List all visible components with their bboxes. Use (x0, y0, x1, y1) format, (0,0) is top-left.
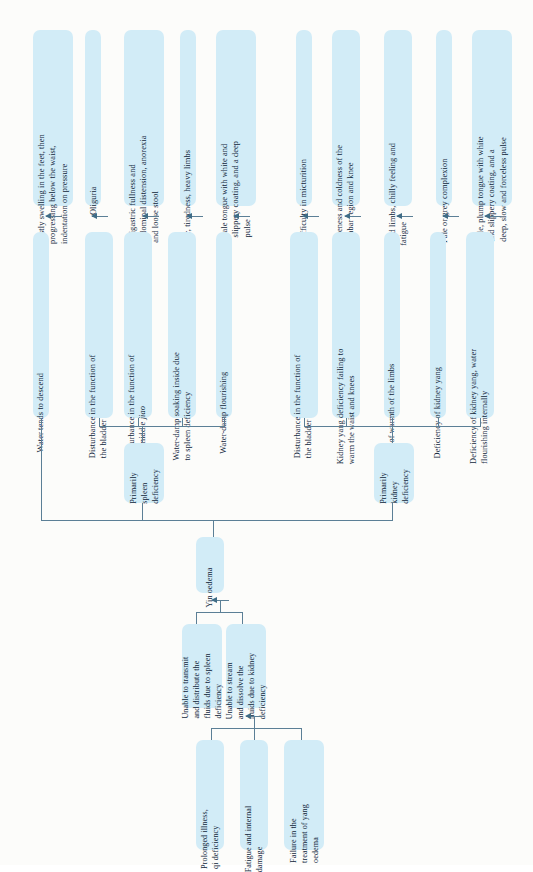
mechanism-label: Disturbance in the function of the bladd… (293, 355, 316, 458)
mechanism-label: Kidney yang deficiency failing to warm t… (335, 349, 358, 465)
pathogenesis-bracket-stem (220, 600, 221, 612)
root-cause-label: Fatigue and internal damage (243, 806, 265, 872)
pathogenesis-bracket (196, 612, 242, 613)
mechanism-label: Water-damp soaking inside due to spleen … (171, 352, 194, 460)
pathogenesis-label: Unable to stream and dissolve the fluids… (224, 653, 268, 720)
mechanism-node-10: Deficiency of kidney yang, water flouris… (466, 232, 494, 418)
kidney-stub-9 (438, 418, 439, 426)
arrow-head-4 (186, 213, 192, 219)
pattern-label: Primarily spleen deficiency (127, 469, 160, 504)
kidney-stub-6 (304, 418, 305, 426)
symptom-node-9: Pale or grey complexion (436, 30, 452, 206)
symptom-label: Pale tongue with white and slippery coat… (219, 141, 253, 238)
symptom-label: Cold limbs, chilly feeling and fatigue (387, 143, 410, 246)
symptom-node-4: Pallor, tiredness, heavy limbs (180, 30, 196, 206)
pattern-node-spleen: Primarily spleen deficiency (124, 443, 164, 503)
root-trunk (41, 520, 393, 521)
mechanism-label: Disturbance in the function of the bladd… (88, 355, 111, 458)
spleen-direct-line (41, 418, 42, 520)
arrow-head-9 (442, 213, 448, 219)
pattern-kidney-drop (392, 503, 393, 520)
cause-bracket-right (301, 728, 302, 740)
spleen-stub-2 (99, 418, 100, 426)
pattern-node-kidney: Primarily kidney deficiency (374, 443, 414, 503)
spleen-stub-4 (182, 418, 183, 426)
symptom-label: Soreness and coldness of the lumbar regi… (335, 145, 358, 244)
kidney-stub-7 (346, 418, 347, 426)
arrow-head-3 (142, 213, 148, 219)
symptom-node-8: Cold limbs, chilly feeling and fatigue (384, 30, 412, 206)
arrow-head-2 (91, 213, 97, 219)
mechanism-node-8: Lack of warmth of the limbs (384, 232, 400, 418)
root-node-yin-oedema: Yin oedema (196, 537, 224, 593)
arrow-head-8 (396, 213, 402, 219)
cause-arrow-head (245, 713, 251, 719)
cause-bracket-stem (254, 716, 255, 740)
root-cause-node-1: Prolonged illness, qi deficiency (196, 740, 224, 850)
symptom-label: Oliguria (87, 186, 98, 215)
arrow-head-6 (302, 213, 308, 219)
root-cause-node-2: Fatigue and internal damage (240, 740, 268, 850)
symptom-node-7: Soreness and coldness of the lumbar regi… (332, 30, 360, 206)
root-arrow-head (211, 597, 217, 603)
pathogenesis-bracket-right (242, 612, 243, 624)
pattern-label: Primarily kidney deficiency (377, 469, 410, 504)
symptom-label: Difficulty in micturition (298, 159, 309, 242)
mechanism-label: Water-damp flourishing (218, 371, 229, 453)
mechanism-node-4: Water-damp soaking inside due to spleen … (168, 232, 196, 418)
pattern-spleen-drop (142, 503, 143, 520)
arrow-head-5 (233, 213, 239, 219)
symptom-node-1: Firstly swelling in the feet, then progr… (33, 30, 73, 206)
kidney-stub-8 (392, 418, 393, 426)
symptom-label: Pale, plump tongue with white and slippe… (475, 136, 509, 241)
symptom-node-3: Epigastric fullness and abdominal disten… (124, 30, 164, 206)
arrow-head-10 (484, 213, 490, 219)
spleen-bracket (99, 426, 225, 427)
symptom-node-5: Pale tongue with white and slippery coat… (216, 30, 256, 206)
root-trunk-drop (213, 520, 214, 537)
spleen-bracket-drop (142, 426, 143, 443)
symptom-node-2: Oliguria (85, 30, 101, 206)
mechanism-node-3: Disturbance in the function of the middl… (124, 232, 152, 418)
spleen-stub-5 (224, 418, 225, 426)
mechanism-node-9: Deficiency of kidney yang (430, 232, 446, 418)
cause-bracket (211, 728, 301, 729)
cause-bracket-left (211, 728, 212, 740)
mechanism-label: Deficiency of kidney yang (432, 367, 443, 459)
kidney-bracket-drop (392, 426, 393, 443)
mechanism-label-italic: jiao (139, 406, 148, 419)
pathogenesis-node-kidney: Unable to stream and dissolve the fluids… (226, 624, 266, 708)
arrow-head-7 (344, 213, 350, 219)
pathogenesis-bracket-left (196, 612, 197, 624)
symptom-label: Epigastric fullness and abdominal disten… (127, 135, 161, 242)
pathogenesis-node-spleen: Unable to transmit and distribute the fl… (182, 624, 222, 708)
symptom-label: Firstly swelling in the feet, then progr… (36, 134, 70, 244)
symptom-node-10: Pale, plump tongue with white and slippe… (472, 30, 512, 206)
symptom-node-6: Difficulty in micturition (296, 30, 312, 206)
mechanism-node-2: Disturbance in the function of the bladd… (85, 232, 113, 418)
pathogenesis-label: Unable to transmit and distribute the fl… (180, 653, 224, 718)
kidney-stub-10 (480, 418, 481, 426)
root-cause-node-3: Failure in the treatment of yang oedema (284, 740, 324, 850)
mechanism-node-7: Kidney yang deficiency failing to warm t… (332, 232, 360, 418)
mechanism-node-6: Disturbance in the function of the bladd… (290, 232, 318, 418)
mechanism-node-5: Water-damp flourishing (216, 232, 232, 418)
spleen-stub-3 (138, 418, 139, 426)
symptom-label: Pale or grey complexion (438, 158, 449, 242)
mechanism-node-1: Water tends to descend (33, 232, 49, 418)
root-cause-label: Prolonged illness, qi deficiency (199, 809, 221, 869)
mechanism-label: Deficiency of kidney yang, water flouris… (469, 349, 492, 464)
arrow-head-1 (45, 213, 51, 219)
root-cause-label: Failure in the treatment of yang oedema (288, 804, 321, 863)
